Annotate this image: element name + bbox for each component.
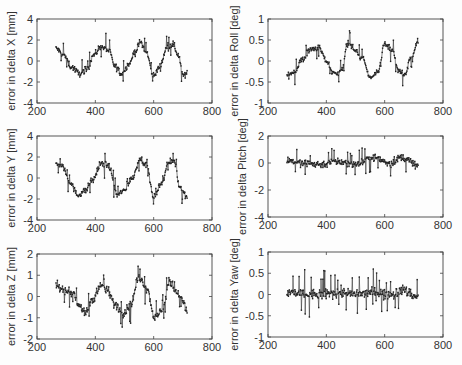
subplot-dpitch: 200400600800-4-202error in delta Pitch […: [236, 118, 452, 235]
axes-box: [268, 19, 443, 103]
x-tick-label: 800: [434, 105, 452, 117]
x-tick-label: 600: [144, 341, 162, 353]
x-tick-label: 400: [86, 105, 104, 117]
x-tick-label: 600: [144, 222, 162, 234]
y-tick-label: -4: [23, 97, 33, 109]
y-tick-label: 0: [27, 55, 33, 67]
axes-box: [37, 19, 212, 103]
y-tick-label: 0: [27, 172, 33, 184]
y-tick-label: 0: [258, 55, 264, 67]
y-tick-label: -0.5: [245, 76, 264, 88]
x-tick-label: 400: [86, 341, 104, 353]
x-tick-label: 600: [144, 105, 162, 117]
y-tick-label: -2: [23, 193, 33, 205]
series-markers: [55, 153, 187, 205]
x-tick-label: 400: [86, 222, 104, 234]
x-tick-label: 800: [434, 219, 452, 231]
y-tick-label: 2: [27, 151, 33, 163]
y-tick-label: 1: [258, 13, 264, 25]
y-tick-label: -2: [23, 76, 33, 88]
y-tick-label: 2: [258, 130, 264, 142]
x-tick-label: 400: [317, 105, 335, 117]
subplot-dx: 200400600800-4-2024error in delta X [mm]: [5, 11, 221, 117]
x-tick-label: 800: [203, 222, 221, 234]
y-tick-label: 0: [258, 289, 264, 301]
y-tick-label: 0.5: [249, 34, 264, 46]
x-tick-label: 600: [375, 339, 393, 351]
subplot-dz: 200400600800-2-1012error in delta Z [mm]: [5, 247, 221, 353]
y-tick-label: -1: [23, 312, 33, 324]
y-tick-label: 2: [27, 34, 33, 46]
figure-canvas: 200400600800-4-2024error in delta X [mm]…: [0, 0, 462, 365]
series-line: [287, 31, 418, 86]
x-tick-label: 800: [203, 341, 221, 353]
x-tick-label: 800: [203, 105, 221, 117]
y-tick-label: 0.5: [249, 267, 264, 279]
series-line: [287, 148, 418, 176]
y-tick-label: -1: [254, 97, 264, 109]
y-tick-label: 0: [27, 291, 33, 303]
y-tick-label: -4: [254, 211, 264, 223]
y-axis-label: error in delta Y [mm]: [5, 128, 17, 227]
x-tick-label: 400: [317, 219, 335, 231]
y-tick-label: 2: [27, 248, 33, 260]
axes-box: [37, 254, 212, 339]
y-axis-label: error in delta Z [mm]: [5, 247, 17, 346]
y-tick-label: -2: [254, 184, 264, 196]
y-tick-label: 4: [27, 130, 33, 142]
y-tick-label: 4: [27, 13, 33, 25]
series-markers: [286, 30, 419, 86]
y-tick-label: 1: [27, 269, 33, 281]
x-tick-label: 800: [434, 339, 452, 351]
axes-box: [268, 136, 443, 217]
subplot-droll: 200400600800-1-0.500.51error in delta Ro…: [228, 5, 452, 117]
x-tick-label: 600: [375, 105, 393, 117]
y-tick-label: -4: [23, 214, 33, 226]
series-line: [56, 266, 187, 327]
y-tick-label: -1: [254, 331, 264, 343]
series-markers: [55, 33, 187, 82]
y-tick-label: -2: [23, 333, 33, 345]
subplot-dy: 200400600800-4-2024error in delta Y [mm]: [5, 128, 221, 234]
series-markers: [286, 147, 419, 176]
x-tick-label: 600: [375, 219, 393, 231]
y-axis-label: error in delta Yaw [deg]: [228, 238, 240, 351]
subplot-dyaw: 200400600800-1-0.500.51error in delta Ya…: [228, 238, 452, 351]
y-axis-label: error in delta X [mm]: [5, 11, 17, 111]
y-tick-label: 1: [258, 246, 264, 258]
series-line: [56, 154, 187, 204]
y-axis-label: error in delta Roll [deg]: [228, 5, 240, 116]
y-axis-label: error in delta Pitch [deg]: [236, 118, 248, 235]
y-tick-label: 0: [258, 157, 264, 169]
x-tick-label: 400: [317, 339, 335, 351]
axes-box: [37, 136, 212, 220]
y-tick-label: -0.5: [245, 310, 264, 322]
